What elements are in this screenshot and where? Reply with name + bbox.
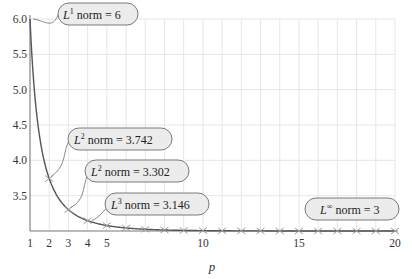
callout-leader [70,172,89,208]
x-tick-label: 4 [85,237,91,249]
x-axis-label: p [208,259,216,274]
y-tick-label: 6.0 [13,13,28,25]
y-tick-label: 4.5 [13,119,28,131]
callout-label: L3 norm = 3.146 [110,197,190,212]
x-tick-label: 5 [104,237,110,249]
x-tick-label: 3 [66,237,72,249]
x-tick-label: 2 [46,237,52,249]
y-tick-label: 3.5 [13,190,28,202]
y-tick-label: 4.0 [13,154,28,166]
lp-norm-chart: 3.54.04.55.05.56.012345101520 L1 norm = … [0,0,412,279]
x-tick-label: 20 [389,237,401,249]
callout-label: L2 norm = 3.302 [90,164,170,179]
y-tick-label: 5.5 [13,48,28,60]
x-tick-label: 10 [197,237,209,249]
x-tick-label: 1 [27,237,33,249]
callout-label: L2 norm = 3.742 [73,132,153,147]
x-tick-label: 15 [293,237,305,249]
y-tick-label: 5.0 [13,84,28,96]
callout-leader [51,140,70,177]
